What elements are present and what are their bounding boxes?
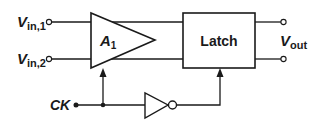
terminal-vin2-icon	[46, 56, 51, 61]
label-vout: Vout	[280, 32, 307, 51]
junction-ck-icon	[101, 103, 106, 108]
inverter	[145, 93, 168, 118]
terminal-vin1-icon	[46, 19, 51, 24]
label-vin1: Vin,1	[17, 13, 46, 32]
terminal-ck-icon	[74, 103, 79, 108]
arrow-up-latch-icon	[217, 68, 224, 77]
comparator-diagram: Vin,1 Vin,2 CK A1 Latch Vout	[0, 0, 320, 126]
label-latch: Latch	[200, 33, 237, 49]
inverter-bubble-icon	[169, 101, 177, 109]
arrow-up-amp-icon	[100, 68, 107, 77]
label-vin2: Vin,2	[17, 50, 46, 69]
label-ck: CK	[50, 97, 71, 113]
wire-ckbar-to-latch	[177, 76, 220, 105]
terminal-vout-bottom-icon	[281, 56, 286, 61]
terminal-vout-top-icon	[281, 19, 286, 24]
